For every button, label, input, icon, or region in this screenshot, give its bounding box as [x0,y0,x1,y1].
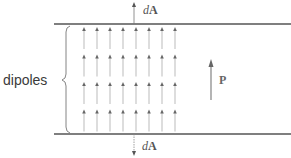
dipole-arrow-icon [173,55,177,77]
arrow-down-icon [132,134,136,156]
dipole-arrow-icon [108,27,112,49]
polarized-slab-diagram: dipoles dA dA P [0,0,291,158]
dipoles-label: dipoles [3,73,47,87]
dipole-arrow-icon [95,27,99,49]
dipole-arrow-icon [147,110,151,132]
dipole-arrow-icon [82,27,86,49]
dipole-arrow-icon [160,110,164,132]
dipole-arrow-icon [147,82,151,104]
polarization-label: P [219,74,226,86]
dipole-arrow-icon [108,82,112,104]
dipole-arrow-icon [95,110,99,132]
dipole-arrow-icon [108,110,112,132]
dipole-arrow-icon [121,27,125,49]
bottom-area-element-label: dA [142,140,157,152]
dipole-arrow-icon [173,27,177,49]
dipole-arrow-icon [95,55,99,77]
polarization-arrow-icon [209,59,214,100]
left-curly-brace-icon [62,26,70,133]
dipole-arrow-icon [160,55,164,77]
dipole-arrow-icon [134,27,138,49]
dipole-arrow-icon [82,82,86,104]
dipole-arrow-icon [173,82,177,104]
dipole-arrow-icon [160,82,164,104]
bottom-area-A: A [148,139,157,153]
dipole-arrow-icon [121,110,125,132]
dipole-arrow-icon [160,27,164,49]
dipole-arrow-icon [134,82,138,104]
arrow-up-icon [132,2,136,24]
dipole-arrow-icon [121,55,125,77]
dipole-arrow-icon [95,82,99,104]
dipole-arrow-icon [147,55,151,77]
top-area-element-label: dA [143,4,158,16]
dipole-arrow-icon [108,55,112,77]
dipole-arrow-icon [82,55,86,77]
dipole-arrow-icon [121,82,125,104]
dipole-arrow-icon [134,55,138,77]
dipole-arrow-icon [147,27,151,49]
dipole-arrow-icon [82,110,86,132]
top-area-A: A [149,3,158,17]
dipole-arrow-icon [173,110,177,132]
dipole-grid [82,27,177,132]
dipole-arrow-icon [134,110,138,132]
